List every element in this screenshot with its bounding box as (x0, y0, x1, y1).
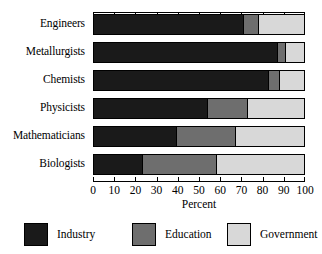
x-tick-label-20: 20 (130, 184, 142, 197)
x-axis-title: Percent (93, 198, 305, 211)
x-tick-label-90: 90 (278, 184, 290, 197)
bar-segment-metallurgists-industry (94, 43, 277, 62)
bar-segment-mathematicians-education (176, 127, 235, 146)
bar-chemists (93, 70, 305, 91)
x-tick-label-10: 10 (108, 184, 120, 197)
bar-physicists (93, 98, 305, 119)
bar-segment-physicists-government (247, 99, 304, 118)
x-tick-bottom-100 (304, 177, 305, 181)
x-tick-label-70: 70 (236, 184, 248, 197)
y-axis-label-metallurgists: Metallurgists (0, 45, 85, 57)
x-tick-bottom-0 (93, 177, 94, 181)
x-tick-label-40: 40 (172, 184, 184, 197)
y-axis-category-labels: Engineers Metallurgists Chemists Physici… (0, 12, 89, 182)
bar-engineers (93, 14, 305, 35)
y-axis-label-chemists: Chemists (0, 73, 85, 85)
bar-segment-mathematicians-industry (94, 127, 176, 146)
x-tick-bottom-90 (284, 177, 285, 181)
bar-segment-engineers-education (243, 15, 258, 34)
legend-swatch-industry (24, 223, 48, 246)
bar-segment-physicists-industry (94, 99, 207, 118)
chart-legend: Industry Education Government (24, 222, 304, 248)
x-tick-label-50: 50 (193, 184, 205, 197)
bar-segment-mathematicians-government (235, 127, 304, 146)
y-axis-label-engineers: Engineers (0, 17, 85, 29)
bar-segment-engineers-industry (94, 15, 243, 34)
x-tick-bottom-30 (157, 177, 158, 181)
bar-mathematicians (93, 126, 305, 147)
x-tick-bottom-40 (178, 177, 179, 181)
bar-segment-metallurgists-government (285, 43, 304, 62)
legend-label-industry: Industry (57, 228, 95, 241)
bar-segment-biologists-industry (94, 155, 142, 174)
bar-biologists (93, 154, 305, 175)
bar-segment-physicists-education (207, 99, 247, 118)
legend-item-industry: Industry (24, 222, 95, 246)
bar-segment-biologists-education (142, 155, 216, 174)
bar-segment-chemists-education (268, 71, 279, 90)
plot-area (93, 12, 305, 182)
x-tick-bottom-10 (114, 177, 115, 181)
legend-swatch-education (132, 223, 156, 246)
x-tick-bottom-20 (135, 177, 136, 181)
x-tick-label-100: 100 (296, 184, 313, 197)
legend-label-education: Education (165, 228, 212, 241)
legend-item-government: Government (227, 222, 317, 246)
bar-segment-chemists-industry (94, 71, 268, 90)
x-axis-bottom-line (93, 181, 305, 182)
stacked-bar-chart-figure: Engineers Metallurgists Chemists Physici… (0, 0, 322, 254)
x-tick-label-60: 60 (214, 184, 226, 197)
legend-label-government: Government (260, 228, 317, 241)
x-tick-bottom-50 (199, 177, 200, 181)
bar-segment-chemists-government (279, 71, 304, 90)
bar-segment-biologists-government (216, 155, 304, 174)
legend-swatch-government (227, 223, 251, 246)
legend-item-education: Education (132, 222, 212, 246)
x-tick-label-30: 30 (151, 184, 163, 197)
bar-metallurgists (93, 42, 305, 63)
y-axis-label-physicists: Physicists (0, 101, 85, 113)
bar-segment-engineers-government (258, 15, 304, 34)
y-axis-label-mathematicians: Mathematicians (0, 129, 85, 141)
x-tick-label-0: 0 (90, 184, 96, 197)
x-axis-tick-labels: 0102030405060708090100 (93, 184, 305, 198)
x-tick-bottom-80 (263, 177, 264, 181)
x-tick-bottom-70 (241, 177, 242, 181)
y-axis-label-biologists: Biologists (0, 157, 85, 169)
x-tick-label-80: 80 (257, 184, 269, 197)
bar-segment-metallurgists-education (277, 43, 285, 62)
x-tick-bottom-60 (220, 177, 221, 181)
